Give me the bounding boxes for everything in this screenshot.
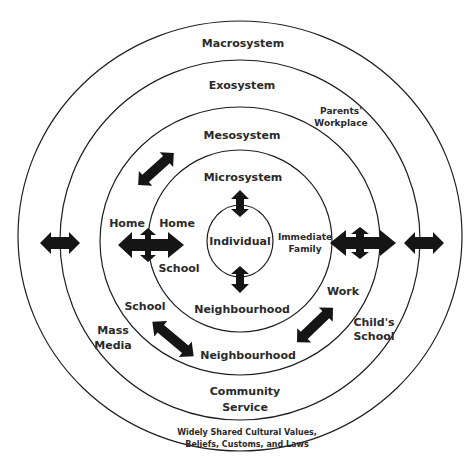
mass-media-label-line1: Mass <box>97 324 129 337</box>
childs-school-label-line1: Child's <box>353 316 395 329</box>
mesosystem-label: Mesosystem <box>204 129 281 142</box>
parents-workplace-label-line2: Workplace <box>314 118 367 128</box>
diagonal-arrow-icon-lower-left <box>146 314 200 364</box>
childs-school-label-line2: School <box>353 330 394 343</box>
individual-label: Individual <box>209 235 270 248</box>
community-service-label-line1: Community <box>210 385 280 398</box>
cultural-values-label-line1: Widely Shared Cultural Values, <box>177 428 317 437</box>
microsystem-label: Microsystem <box>204 171 283 184</box>
immediate-family-label-line2: Family <box>288 244 321 254</box>
vertical-arrow-icon-bottom <box>231 266 249 293</box>
cultural-values-label-line2: Beliefs, Customs, and Laws <box>185 440 309 449</box>
mesosystem-work-label: Work <box>327 285 360 298</box>
immediate-family-label-line1: Immediate <box>278 232 332 242</box>
parents-workplace-label-line1: Parents' <box>320 106 362 116</box>
mesosystem-school-label: School <box>124 300 165 313</box>
macrosystem-label: Macrosystem <box>202 37 284 50</box>
four-way-arrow-icon-right <box>330 227 396 259</box>
microsystem-neighbourhood-label: Neighbourhood <box>194 303 290 316</box>
mass-media-label-line2: Media <box>94 339 131 352</box>
microsystem-home-label: Home <box>159 217 195 230</box>
vertical-arrow-icon-top <box>231 190 249 217</box>
mesosystem-neighbourhood-label: Neighbourhood <box>200 349 296 362</box>
four-way-arrow-icon-left <box>118 228 184 262</box>
mesosystem-home-label: Home <box>109 217 145 230</box>
community-service-label-line2: Service <box>222 401 268 414</box>
ecological-systems-diagram: Macrosystem Exosystem Mesosystem Microsy… <box>0 0 476 470</box>
double-arrow-icon-right-outer <box>404 232 444 254</box>
exosystem-label: Exosystem <box>209 79 276 92</box>
diagonal-arrow-icon-upper-left <box>131 146 180 193</box>
microsystem-school-label: School <box>158 262 199 275</box>
